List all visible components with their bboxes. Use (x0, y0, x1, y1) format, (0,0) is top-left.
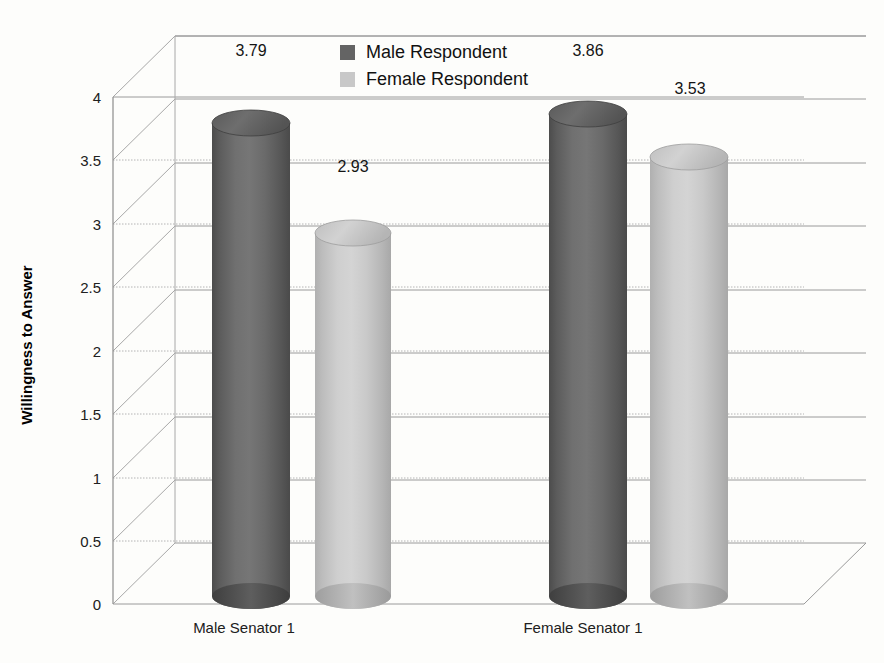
bar-top-ellipse (650, 144, 728, 170)
bar-bottom-ellipse (650, 583, 728, 609)
y-tick-2p5: 2.5 (80, 279, 101, 296)
bar-male-male-senator-1[interactable] (212, 110, 290, 609)
bar-female-female-senator-1[interactable] (650, 144, 728, 609)
y-tick-0: 0 (93, 596, 101, 613)
chart-container: 0 0.5 1 1.5 2 2.5 3 3.5 4 Willingness to… (0, 0, 884, 663)
x-category-female-senator-1: Female Senator 1 (523, 619, 642, 636)
legend-item-male-respondent[interactable]: Male Respondent (340, 42, 507, 62)
legend-item-female-respondent[interactable]: Female Respondent (340, 69, 528, 89)
y-tick-1p5: 1.5 (80, 406, 101, 423)
bar-top-ellipse (212, 110, 290, 136)
value-label-male-senator-1-female: 2.93 (337, 158, 368, 175)
value-label-male-senator-1-male: 3.79 (235, 42, 266, 59)
legend-swatch-female-icon (340, 72, 355, 87)
bar-top-ellipse (315, 220, 391, 246)
y-tick-2: 2 (93, 343, 101, 360)
bar-female-male-senator-1[interactable] (315, 220, 391, 609)
bar-bottom-ellipse (549, 583, 627, 609)
y-tick-3p5: 3.5 (80, 152, 101, 169)
bar-chart-svg: 0 0.5 1 1.5 2 2.5 3 3.5 4 Willingness to… (0, 0, 884, 663)
y-tick-1: 1 (93, 470, 101, 487)
bar-male-female-senator-1[interactable] (549, 101, 627, 609)
bar-body (212, 123, 290, 609)
bar-bottom-ellipse (212, 583, 290, 609)
legend-swatch-male-icon (340, 45, 355, 60)
y-tick-4: 4 (93, 89, 101, 106)
value-label-female-senator-1-male: 3.86 (572, 42, 603, 59)
y-tick-3: 3 (93, 216, 101, 233)
bar-body (650, 157, 728, 609)
value-label-female-senator-1-female: 3.53 (674, 80, 705, 97)
x-category-male-senator-1: Male Senator 1 (193, 619, 295, 636)
bar-top-ellipse (549, 101, 627, 127)
bar-bottom-ellipse (315, 583, 391, 609)
y-axis-title: Willingness to Answer (18, 265, 35, 424)
bar-body (549, 114, 627, 609)
legend-label-female: Female Respondent (366, 69, 528, 89)
bar-body (315, 233, 391, 609)
legend-label-male: Male Respondent (366, 42, 507, 62)
y-tick-0p5: 0.5 (80, 533, 101, 550)
